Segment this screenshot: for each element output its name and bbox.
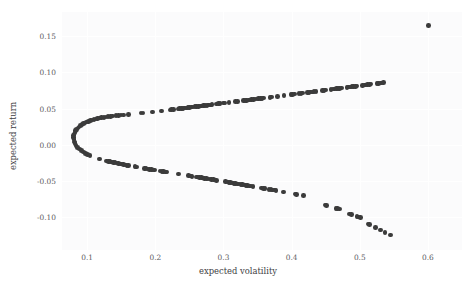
scatter-point	[171, 107, 176, 112]
scatter-point	[294, 192, 299, 197]
plot-area	[62, 12, 462, 250]
scatter-point	[426, 23, 431, 28]
scatter-point	[159, 109, 164, 114]
scatter-point	[337, 207, 342, 212]
x-tick-label: 0.6	[422, 253, 434, 262]
scatter-point	[251, 184, 256, 189]
gridline-horizontal	[62, 145, 462, 146]
scatter-point	[323, 88, 328, 93]
scatter-point	[176, 172, 181, 177]
y-tick-label: 0.05	[40, 104, 56, 113]
scatter-point	[165, 170, 170, 175]
scatter-point	[324, 203, 329, 208]
scatter-point	[355, 84, 360, 89]
gridline-vertical	[292, 12, 293, 250]
scatter-point	[126, 163, 131, 168]
gridline-vertical	[87, 12, 88, 250]
y-tick-label: 0.10	[40, 68, 56, 77]
gridline-vertical	[428, 12, 429, 250]
x-tick-label: 0.2	[149, 253, 161, 262]
gridline-horizontal	[62, 181, 462, 182]
scatter-point	[378, 228, 383, 233]
scatter-point	[121, 113, 126, 118]
x-axis-label: expected volatility	[0, 266, 476, 276]
scatter-point	[339, 86, 344, 91]
x-tick-label: 0.4	[286, 253, 298, 262]
y-axis-label: expected return	[8, 76, 18, 196]
scatter-point	[274, 188, 279, 193]
scatter-point	[358, 215, 363, 220]
scatter-chart-figure: 0.10.20.30.40.50.6-0.10-0.050.000.050.10…	[0, 0, 476, 295]
scatter-point	[282, 93, 287, 98]
scatter-point	[88, 153, 93, 158]
scatter-point	[367, 222, 372, 227]
scatter-point	[349, 212, 354, 217]
scatter-point	[314, 89, 319, 94]
scatter-point	[227, 100, 232, 105]
scatter-point	[134, 165, 139, 170]
scatter-point	[97, 157, 102, 162]
gridline-horizontal	[62, 72, 462, 73]
scatter-point	[275, 94, 280, 99]
y-tick-label: -0.05	[37, 177, 56, 186]
gridline-horizontal	[62, 217, 462, 218]
y-tick-label: 0.15	[40, 31, 56, 40]
gridline-horizontal	[62, 36, 462, 37]
scatter-point	[383, 230, 388, 235]
scatter-point	[235, 99, 240, 104]
scatter-point	[292, 92, 297, 97]
scatter-point	[281, 190, 286, 195]
x-tick-label: 0.1	[81, 253, 93, 262]
gridline-horizontal	[62, 109, 462, 110]
scatter-point	[141, 111, 146, 116]
gridline-vertical	[223, 12, 224, 250]
x-tick-label: 0.3	[218, 253, 230, 262]
scatter-point	[126, 112, 131, 117]
x-tick-label: 0.5	[354, 253, 366, 262]
scatter-point	[369, 82, 374, 87]
gridline-vertical	[155, 12, 156, 250]
scatter-point	[301, 193, 306, 198]
scatter-point	[150, 110, 155, 115]
scatter-point	[381, 80, 386, 85]
y-tick-label: -0.10	[37, 213, 56, 222]
scatter-point	[388, 233, 393, 238]
scatter-point	[214, 178, 219, 183]
scatter-point	[261, 96, 266, 101]
y-tick-label: 0.00	[40, 140, 56, 149]
scatter-point	[269, 95, 274, 100]
